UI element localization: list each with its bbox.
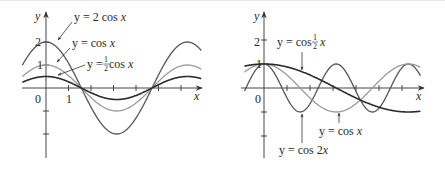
- left-y-label: y: [34, 9, 41, 23]
- right-tick-y1: 1: [256, 57, 262, 71]
- label-cos-half-x: y = cos 1 2 x: [277, 33, 326, 51]
- right-tick-y2: 2: [254, 35, 260, 49]
- left-tick-x1: 1: [66, 92, 72, 106]
- svg-text:1: 1: [104, 55, 108, 64]
- right-y-label: y: [253, 9, 260, 23]
- svg-text:y = cos: y = cos: [277, 35, 312, 49]
- svg-text:2: 2: [104, 64, 108, 73]
- right-plot: y x 0 2 1 y = cos 1 2 x y = cos x y = co…: [241, 9, 424, 158]
- arrow-2cosx: [58, 22, 72, 40]
- right-x-label: x: [415, 89, 422, 103]
- svg-text:cos x: cos x: [109, 57, 134, 71]
- svg-text:2: 2: [313, 42, 317, 51]
- svg-text:y =: y =: [87, 57, 103, 71]
- svg-text:x: x: [319, 35, 326, 49]
- label-cosx: y = cos x: [72, 36, 116, 50]
- figure: y x 0 1 2 1 y = 2 cos x y = cos x y = 1 …: [0, 0, 445, 171]
- left-plot: y x 0 1 2 1 y = 2 cos x y = cos x y = 1 …: [22, 9, 202, 158]
- right-origin-label: 0: [255, 92, 261, 106]
- svg-text:1: 1: [313, 33, 317, 42]
- left-tick-y1: 1: [37, 58, 43, 72]
- label-cosx-right: y = cos x: [319, 124, 363, 138]
- label-half-cosx: y = 1 2 cos x: [87, 55, 134, 73]
- left-tick-y2: 2: [35, 35, 41, 49]
- left-x-label: x: [193, 89, 200, 103]
- label-2cosx: y = 2 cos x: [74, 10, 127, 24]
- left-origin-label: 0: [35, 92, 41, 106]
- label-cos2x: y = cos 2x: [279, 143, 329, 157]
